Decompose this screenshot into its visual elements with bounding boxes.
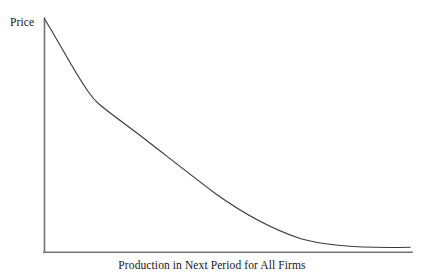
chart-background (0, 0, 424, 274)
chart-figure: Price Production in Next Period for All … (0, 0, 424, 274)
x-axis-label: Production in Next Period for All Firms (0, 260, 424, 272)
y-axis-label: Price (10, 17, 34, 29)
plot-area (0, 0, 424, 274)
